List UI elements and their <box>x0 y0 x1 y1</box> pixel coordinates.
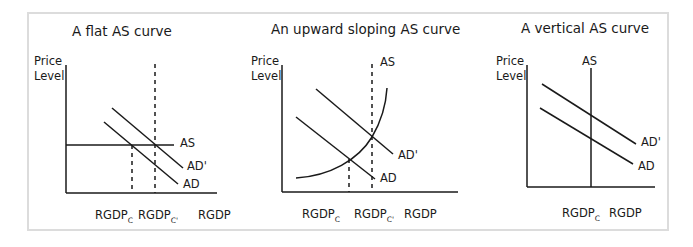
x-label-rgdp-c-prime: RGDPC' <box>354 207 394 224</box>
ad-label: AD <box>638 159 655 173</box>
ad-shifted-label: AD' <box>641 135 661 149</box>
ad-curve <box>540 108 633 164</box>
ad-shifted-label: AD' <box>187 159 207 173</box>
panel-title: An upward sloping AS curve <box>271 21 460 37</box>
y-axis-label: Level <box>251 69 281 83</box>
panel-flat-as <box>66 64 217 193</box>
as-ad-diagrams: A flat AS curve Price Level AS AD' AD RG… <box>0 0 693 247</box>
as-label: AS <box>582 54 597 68</box>
x-label-rgdp-c: RGDPC <box>562 206 600 223</box>
x-label-rgdp-c: RGDPC <box>95 208 133 225</box>
ad-shifted-label: AD' <box>398 148 418 162</box>
as-label: AS <box>180 136 195 150</box>
ad-label: AD <box>183 177 200 191</box>
y-axis-label: Price <box>34 54 62 68</box>
panel-title: A flat AS curve <box>72 23 172 39</box>
panel-title: A vertical AS curve <box>521 20 649 36</box>
x-axis-label: RGDP <box>198 208 231 222</box>
as-label: AS <box>380 55 395 69</box>
x-axis-label: RGDP <box>609 206 642 220</box>
panel-vertical-as <box>527 65 655 187</box>
y-axis-label: Price <box>251 54 279 68</box>
ad-shifted-curve <box>316 89 393 154</box>
x-label-rgdp-c-prime: RGDPC' <box>138 208 178 225</box>
ad-label: AD <box>380 171 397 185</box>
x-label-rgdp-c: RGDPC <box>302 207 340 224</box>
y-axis-label: Price <box>496 54 524 68</box>
as-curve <box>296 88 387 178</box>
ad-curve <box>104 122 178 184</box>
ad-shifted-curve <box>542 84 636 144</box>
x-axis-label: RGDP <box>404 207 437 221</box>
y-axis-label: Level <box>496 69 526 83</box>
y-axis-label: Level <box>34 69 64 83</box>
panel-upward-as <box>282 64 458 192</box>
